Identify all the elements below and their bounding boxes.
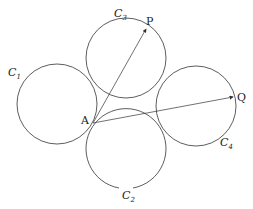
label-c3: C3 xyxy=(114,7,127,22)
circle-c4 xyxy=(156,66,236,146)
label-c4: C4 xyxy=(220,136,233,151)
label-q: Q xyxy=(237,91,246,104)
circles-diagram: C1 C3 C4 C2 A P Q xyxy=(0,0,253,209)
diagram-canvas: C1 C3 C4 C2 A P Q xyxy=(0,0,253,209)
label-a: A xyxy=(80,114,90,127)
label-p: P xyxy=(146,15,154,28)
circle-c2 xyxy=(86,109,166,188)
circle-c3 xyxy=(86,18,166,98)
circle-c1 xyxy=(17,64,97,144)
label-c1: C1 xyxy=(8,66,21,81)
vector-aq xyxy=(93,97,233,123)
label-c2: C2 xyxy=(122,189,135,204)
